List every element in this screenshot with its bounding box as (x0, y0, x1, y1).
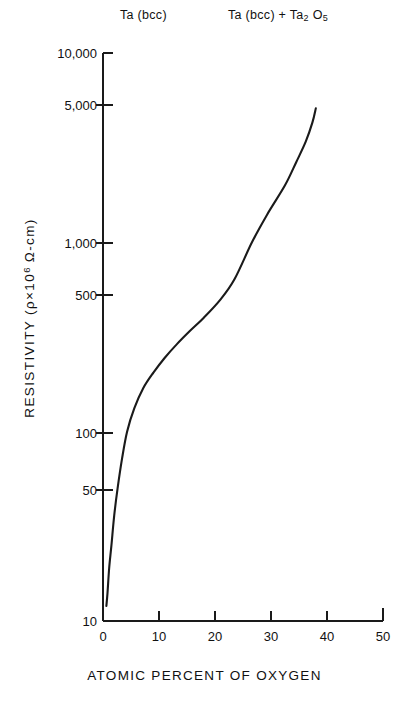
plot-area (0, 0, 409, 702)
resistivity-vs-oxygen-chart: Ta (bcc) Ta (bcc) + Ta2 O5 10,000 5,000 … (0, 0, 409, 702)
y-axis-ticks (96, 53, 113, 490)
resistivity-curve (106, 108, 315, 606)
x-axis-ticks (159, 608, 383, 621)
